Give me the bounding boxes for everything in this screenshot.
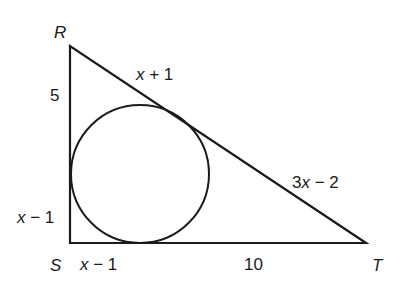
- triangle-rst: [70, 46, 366, 243]
- segment-label-rs-lower: x − 1: [16, 208, 54, 227]
- segment-label-st-right: 10: [244, 255, 263, 274]
- segment-label-rt-lower: 3x − 2: [292, 173, 339, 192]
- inscribed-circle: [71, 105, 209, 243]
- segment-label-rs-upper: 5: [50, 86, 59, 105]
- vertex-label-t: T: [372, 256, 384, 275]
- inscribed-circle-diagram: R S T 5 x − 1 x − 1 10 x + 1 3x − 2: [0, 0, 406, 289]
- vertex-label-r: R: [54, 23, 66, 42]
- segment-label-rt-upper: x + 1: [135, 65, 173, 84]
- vertex-label-s: S: [50, 256, 62, 275]
- segment-label-st-left: x − 1: [79, 255, 117, 274]
